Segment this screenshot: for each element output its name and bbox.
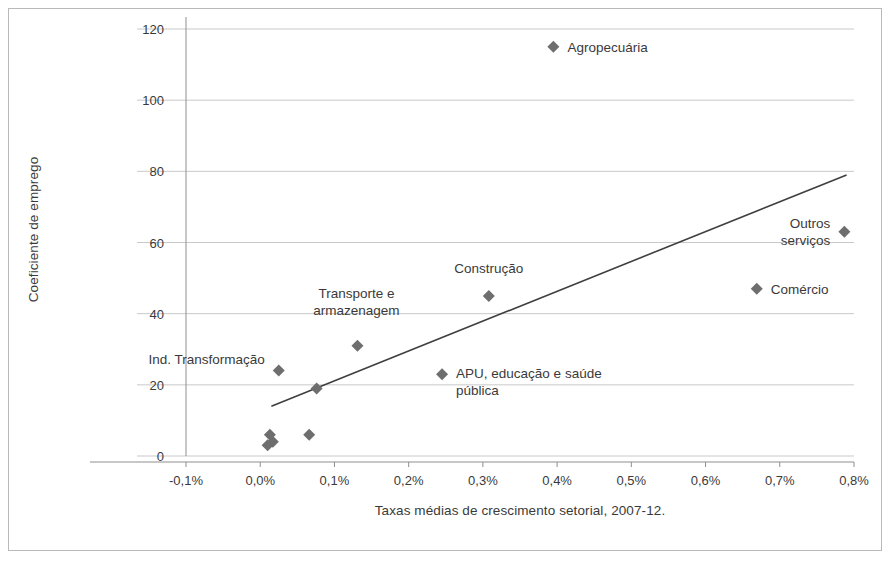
data-point-marker[interactable] bbox=[838, 226, 850, 238]
x-tick-label: 0,1% bbox=[320, 473, 350, 488]
x-tick-label: 0,3% bbox=[468, 473, 498, 488]
data-point-marker[interactable] bbox=[436, 368, 448, 380]
y-tick-label: 120 bbox=[118, 22, 164, 37]
data-point-marker[interactable] bbox=[547, 41, 559, 53]
x-tick-label: -0,1% bbox=[169, 473, 203, 488]
data-point-label: Construção bbox=[454, 259, 523, 276]
x-tick-label: 0,7% bbox=[765, 473, 795, 488]
x-tick-label: 0,5% bbox=[617, 473, 647, 488]
data-point-marker[interactable] bbox=[351, 340, 363, 352]
scatter-plot-canvas bbox=[0, 0, 892, 562]
data-point-marker[interactable] bbox=[273, 365, 285, 377]
x-tick-label: 0,2% bbox=[394, 473, 424, 488]
y-tick-label: 40 bbox=[118, 306, 164, 321]
y-tick-label: 0 bbox=[118, 449, 164, 464]
chart-figure: 020406080100120-0,1%0,0%0,1%0,2%0,3%0,4%… bbox=[0, 0, 892, 562]
data-point-marker[interactable] bbox=[483, 290, 495, 302]
x-tick-label: 0,0% bbox=[245, 473, 275, 488]
data-point-label: Transporte e armazenagem bbox=[313, 285, 399, 319]
x-axis-title: Taxas médias de crescimento setorial, 20… bbox=[186, 503, 854, 518]
y-tick-label: 100 bbox=[118, 93, 164, 108]
axis-ticks bbox=[186, 462, 854, 467]
data-point-label: APU, educação e saúde pública bbox=[456, 365, 602, 399]
data-point-label: Agropecuária bbox=[567, 38, 647, 55]
y-tick-label: 60 bbox=[118, 235, 164, 250]
y-tick-label: 20 bbox=[118, 377, 164, 392]
data-point-label: Comércio bbox=[771, 280, 829, 297]
data-point-label: Ind. Transformação bbox=[148, 350, 264, 367]
x-tick-label: 0,6% bbox=[691, 473, 721, 488]
data-point-label: Outros serviços bbox=[769, 215, 831, 249]
data-point-marker[interactable] bbox=[311, 382, 323, 394]
data-point-marker[interactable] bbox=[751, 283, 763, 295]
x-tick-label: 0,4% bbox=[542, 473, 572, 488]
x-tick-label: 0,8% bbox=[839, 473, 869, 488]
y-tick-label: 80 bbox=[118, 164, 164, 179]
data-point-marker[interactable] bbox=[303, 429, 315, 441]
y-axis-title: Coeficiente de emprego bbox=[26, 115, 41, 345]
